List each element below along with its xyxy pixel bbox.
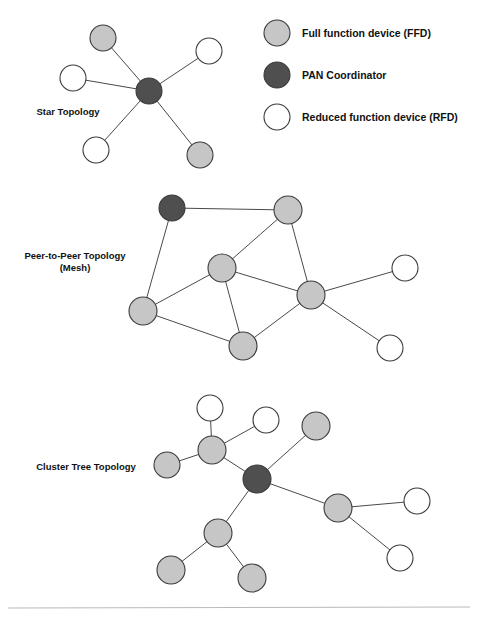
node-ffd[interactable] xyxy=(154,452,180,478)
node-rfd[interactable] xyxy=(392,255,418,281)
node-ffd[interactable] xyxy=(229,332,257,360)
legend-swatch-pan xyxy=(264,62,290,88)
node-ffd[interactable] xyxy=(204,519,232,547)
node-pan-coordinator[interactable] xyxy=(243,465,271,493)
legend-swatch-ffd xyxy=(264,20,290,46)
node-ffd[interactable] xyxy=(324,494,352,522)
node-ffd[interactable] xyxy=(90,25,116,51)
node-pan-coordinator[interactable] xyxy=(159,195,185,221)
topology-label-line: Star Topology xyxy=(36,106,100,117)
node-ffd[interactable] xyxy=(302,412,330,440)
topology-label-cluster-tree: Cluster Tree Topology xyxy=(36,461,136,472)
legend-label-pan: PAN Coordinator xyxy=(302,69,386,81)
figure-background xyxy=(0,0,478,622)
node-rfd[interactable] xyxy=(253,407,279,433)
node-ffd[interactable] xyxy=(238,564,266,592)
legend-label-rfd: Reduced function device (RFD) xyxy=(302,111,458,123)
topology-label-line: Peer-to-Peer Topology xyxy=(24,250,126,261)
node-pan-coordinator[interactable] xyxy=(136,78,162,104)
node-rfd[interactable] xyxy=(387,545,413,571)
node-rfd[interactable] xyxy=(197,395,223,421)
node-ffd[interactable] xyxy=(129,297,157,325)
topology-figure: Star TopologyPeer-to-Peer Topology(Mesh)… xyxy=(0,0,478,622)
node-ffd[interactable] xyxy=(187,142,213,168)
node-rfd[interactable] xyxy=(404,488,430,514)
node-rfd[interactable] xyxy=(196,38,222,64)
node-ffd[interactable] xyxy=(274,196,302,224)
node-rfd[interactable] xyxy=(377,335,403,361)
node-rfd[interactable] xyxy=(60,65,86,91)
node-ffd[interactable] xyxy=(208,254,236,282)
topology-label-line: (Mesh) xyxy=(60,262,91,273)
legend-label-ffd: Full function device (FFD) xyxy=(302,27,431,39)
topology-label-line: Cluster Tree Topology xyxy=(36,461,136,472)
topology-label-star: Star Topology xyxy=(36,106,100,117)
node-ffd[interactable] xyxy=(198,436,226,464)
node-ffd[interactable] xyxy=(157,556,185,584)
node-ffd[interactable] xyxy=(297,281,325,309)
node-rfd[interactable] xyxy=(83,137,109,163)
legend-swatch-rfd xyxy=(264,104,290,130)
